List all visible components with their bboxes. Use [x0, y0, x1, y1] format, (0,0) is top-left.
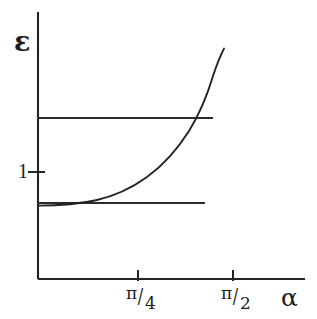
- pi-over-2-slash: /: [233, 286, 238, 306]
- y-axis-label: ε: [14, 28, 30, 55]
- epsilon-curve: [38, 49, 224, 206]
- pi-over-4-denominator: 4: [145, 295, 156, 312]
- pi-over-4-slash: /: [138, 286, 143, 306]
- pi-over-4-numerator: π: [126, 285, 137, 302]
- figure-root: ε α 1 π / 4 π / 2: [0, 0, 317, 319]
- pi-over-2-numerator: π: [221, 285, 232, 302]
- x-axis-label: α: [281, 285, 298, 310]
- plot-canvas: [0, 0, 317, 319]
- y-tick-label-1: 1: [18, 161, 28, 181]
- pi-over-2-denominator: 2: [240, 295, 251, 312]
